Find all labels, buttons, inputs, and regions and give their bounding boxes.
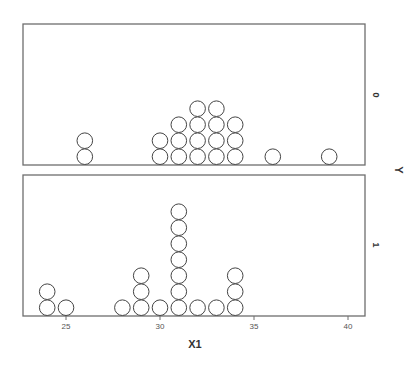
data-dot xyxy=(227,133,243,149)
data-dot xyxy=(152,300,168,316)
data-dot xyxy=(133,300,149,316)
data-dot xyxy=(171,149,187,165)
data-dot xyxy=(171,133,187,149)
data-dot xyxy=(171,300,187,316)
panels: 01 xyxy=(23,24,381,316)
data-dot xyxy=(209,117,225,133)
data-dot xyxy=(171,117,187,133)
data-dot xyxy=(227,149,243,165)
data-dot xyxy=(39,300,55,316)
data-dot xyxy=(133,268,149,284)
strip-label-y-0: 0 xyxy=(371,92,381,97)
data-dot xyxy=(115,300,131,316)
data-dot xyxy=(171,284,187,300)
data-dot xyxy=(171,268,187,284)
data-dot xyxy=(77,149,93,165)
data-dot xyxy=(227,300,243,316)
data-dot xyxy=(152,133,168,149)
data-dot xyxy=(209,133,225,149)
data-dot xyxy=(77,133,93,149)
data-dot xyxy=(39,284,55,300)
data-dot xyxy=(190,117,206,133)
data-dot xyxy=(209,149,225,165)
data-dot xyxy=(190,149,206,165)
data-dot xyxy=(209,101,225,117)
data-dot xyxy=(133,284,149,300)
strip-label-y-1: 1 xyxy=(371,242,381,247)
panel-y-0: 0 xyxy=(23,24,381,165)
data-dot xyxy=(58,300,74,316)
data-dot xyxy=(171,220,187,236)
data-dot xyxy=(152,149,168,165)
dot-plot-chart: 01 25303540 X1 Y xyxy=(0,0,411,367)
panel-y-1: 1 xyxy=(23,175,381,316)
data-dot xyxy=(321,149,337,165)
data-dot xyxy=(227,284,243,300)
panel-frame xyxy=(23,175,365,316)
data-dot xyxy=(190,101,206,117)
data-dot xyxy=(171,236,187,252)
y-axis-label: Y xyxy=(393,166,405,174)
x-axis: 25303540 xyxy=(62,316,353,331)
data-dot xyxy=(209,300,225,316)
x-axis-label: X1 xyxy=(188,338,201,350)
data-dot xyxy=(227,268,243,284)
x-tick-label: 25 xyxy=(62,322,71,331)
data-dot xyxy=(227,117,243,133)
x-tick-label: 40 xyxy=(344,322,353,331)
data-dot xyxy=(190,300,206,316)
x-tick-label: 35 xyxy=(250,322,259,331)
data-dot xyxy=(265,149,281,165)
data-dot xyxy=(171,204,187,220)
data-dot xyxy=(190,133,206,149)
data-dot xyxy=(171,252,187,268)
x-tick-label: 30 xyxy=(156,322,165,331)
